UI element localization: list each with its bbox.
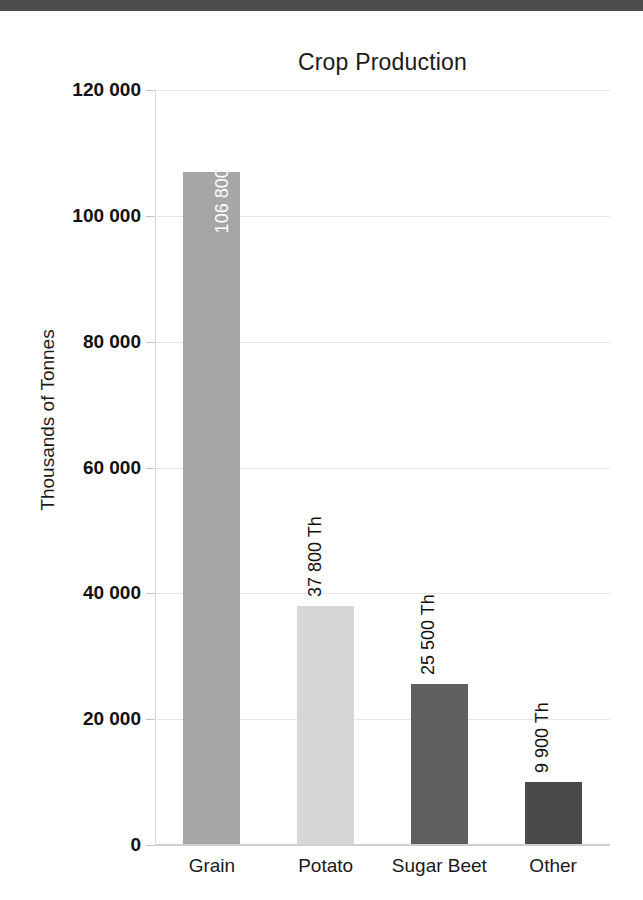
y-axis-tick-label: 0 (130, 834, 141, 856)
gridline (155, 845, 610, 846)
chart-title: Crop Production (155, 49, 610, 76)
x-axis-tick-label: Potato (298, 855, 353, 877)
y-axis-tick-label: 120 000 (72, 79, 141, 101)
x-axis-tick-label: Grain (189, 855, 235, 877)
y-axis-tick (146, 468, 155, 469)
bar-value-label: 9 900 Th (532, 702, 553, 773)
y-axis-tick (146, 845, 155, 846)
plot-area: 020 00040 00060 00080 000100 000120 000 … (155, 90, 610, 845)
top-banner-strip (0, 0, 643, 11)
bar-grain: 106 800 Th (183, 172, 240, 844)
bar-other: 9 900 Th (525, 782, 582, 844)
gridline (155, 90, 610, 91)
bar-value-label: 25 500 Th (418, 594, 439, 675)
y-axis-tick (146, 719, 155, 720)
x-axis-tick-label: Sugar Beet (392, 855, 487, 877)
y-axis-tick-label: 60 000 (83, 457, 141, 479)
bar-value-label: 37 800 Th (305, 516, 326, 597)
crop-production-bar-chart: Crop Production Thousands of Tonnes 020 … (0, 11, 643, 900)
y-axis-title: Thousands of Tonnes (37, 310, 59, 530)
bar-potato: 37 800 Th (297, 606, 354, 844)
y-axis-tick-label: 40 000 (83, 582, 141, 604)
bar-value-label: 106 800 Th (212, 143, 233, 234)
y-axis-tick-label: 80 000 (83, 331, 141, 353)
y-axis-tick-label: 20 000 (83, 708, 141, 730)
bar-sugar-beet: 25 500 Th (411, 684, 468, 844)
y-axis-tick (146, 593, 155, 594)
x-axis-tick-label: Other (529, 855, 577, 877)
y-axis-tick-label: 100 000 (72, 205, 141, 227)
y-axis-tick (146, 342, 155, 343)
y-axis-tick (146, 216, 155, 217)
y-axis-tick (146, 90, 155, 91)
